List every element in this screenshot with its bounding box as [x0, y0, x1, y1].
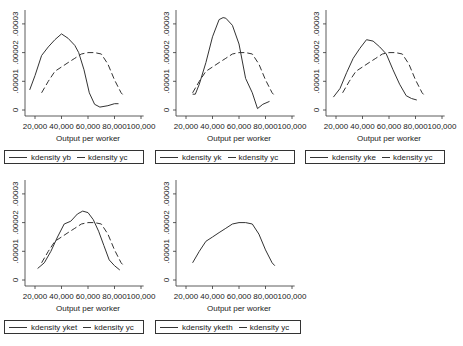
chart-svg: 0.00001.00002.0000320,00040,00060,00080,…	[0, 170, 154, 310]
x-tick-label: 80,000	[253, 292, 278, 301]
legend-item-solid: kdensity yb	[9, 153, 71, 162]
x-axis-title: Output per worker	[207, 304, 271, 313]
legend-item-dashed: kdensity yc	[233, 323, 290, 332]
legend-label-dashed: kdensity yc	[239, 153, 279, 162]
chart-panel-yketh: 0.00001.00002.0000320,00040,00060,00080,…	[151, 170, 305, 340]
dashed-line-swatch-icon	[83, 327, 91, 328]
legend-label-solid: kdensity yketh	[182, 323, 233, 332]
solid-density-line	[30, 34, 119, 107]
solid-density-line	[193, 18, 270, 109]
legend-item-dashed: kdensity yc	[77, 323, 134, 332]
dashed-line-swatch-icon	[228, 157, 236, 158]
y-tick-label: .00002	[11, 210, 20, 235]
solid-line-swatch-icon	[160, 327, 178, 328]
x-axis-title: Output per worker	[56, 134, 120, 143]
legend: kdensity ykkdensity yc	[155, 150, 295, 164]
solid-line-swatch-icon	[310, 157, 328, 158]
legend-item-solid: kdensity yketh	[160, 323, 233, 332]
x-axis-title: Output per worker	[207, 134, 271, 143]
x-tick-label: 40,000	[350, 122, 375, 131]
y-tick-label: .00001	[11, 239, 20, 264]
x-axis-title: Output per worker	[56, 304, 120, 313]
dashed-density-line	[343, 53, 425, 96]
chart-svg: 0.00001.00002.0000320,00040,00060,00080,…	[151, 170, 305, 310]
x-tick-label: 80,000	[253, 122, 278, 131]
y-tick-label: .00002	[162, 210, 171, 235]
legend-item-solid: kdensity yke	[310, 153, 376, 162]
y-tick-label: .00003	[162, 11, 171, 36]
legend-label-dashed: kdensity yc	[88, 153, 128, 162]
x-tick-label: 80,000	[403, 122, 428, 131]
y-tick-label: .00002	[11, 40, 20, 65]
x-tick-label: 60,000	[227, 292, 252, 301]
legend-item-solid: kdensity yket	[9, 323, 77, 332]
y-tick-label: .00003	[312, 11, 321, 36]
x-tick-label: 100,000	[278, 292, 307, 301]
legend-label-solid: kdensity yk	[182, 153, 222, 162]
x-tick-label: 60,000	[76, 292, 101, 301]
legend: kdensity yketkdensity yc	[4, 320, 144, 334]
x-tick-label: 20,000	[174, 292, 199, 301]
legend-label-dashed: kdensity yc	[393, 153, 433, 162]
x-tick-label: 40,000	[49, 292, 74, 301]
legend: kdensity ykethkdensity yc	[155, 320, 301, 334]
y-tick-label: .00001	[11, 69, 20, 94]
x-tick-label: 20,000	[23, 122, 48, 131]
dashed-density-line	[42, 53, 124, 96]
chart-svg: 0.00001.00002.0000320,00040,00060,00080,…	[151, 0, 305, 140]
y-tick-label: .00003	[11, 181, 20, 206]
legend-item-dashed: kdensity yc	[222, 153, 279, 162]
solid-density-line	[333, 40, 416, 100]
solid-line-swatch-icon	[160, 157, 178, 158]
chart-panel-yket: 0.00001.00002.0000320,00040,00060,00080,…	[0, 170, 154, 340]
x-tick-label: 100,000	[428, 122, 457, 131]
y-tick-label: .00002	[162, 40, 171, 65]
chart-panel-yb: 0.00001.00002.0000320,00040,00060,00080,…	[0, 0, 154, 170]
y-tick-label: .00001	[162, 69, 171, 94]
chart-panel-yke: 0.00001.00002.0000320,00040,00060,00080,…	[301, 0, 455, 170]
legend-label-dashed: kdensity yc	[250, 323, 290, 332]
y-tick-label: 0	[162, 277, 171, 282]
x-tick-label: 40,000	[200, 292, 225, 301]
dashed-line-swatch-icon	[77, 157, 85, 158]
legend: kdensity ykekdensity yc	[305, 150, 445, 164]
dashed-line-swatch-icon	[239, 327, 247, 328]
dashed-line-swatch-icon	[382, 157, 390, 158]
y-tick-label: .00002	[312, 40, 321, 65]
x-tick-label: 60,000	[76, 122, 101, 131]
legend-item-dashed: kdensity yc	[71, 153, 128, 162]
x-tick-label: 60,000	[227, 122, 252, 131]
legend-label-solid: kdensity yb	[31, 153, 71, 162]
chart-panel-yk: 0.00001.00002.0000320,00040,00060,00080,…	[151, 0, 305, 170]
y-tick-label: 0	[312, 107, 321, 112]
x-tick-label: 20,000	[23, 292, 48, 301]
y-tick-label: 0	[11, 107, 20, 112]
legend: kdensity ybkdensity yc	[4, 150, 144, 164]
x-axis-title: Output per worker	[357, 134, 421, 143]
solid-line-swatch-icon	[9, 157, 27, 158]
dashed-density-line	[193, 53, 275, 96]
legend-item-solid: kdensity yk	[160, 153, 222, 162]
legend-label-solid: kdensity yket	[31, 323, 77, 332]
solid-density-line	[193, 223, 275, 266]
chart-svg: 0.00001.00002.0000320,00040,00060,00080,…	[0, 0, 154, 140]
y-tick-label: .00003	[162, 181, 171, 206]
solid-line-swatch-icon	[9, 327, 27, 328]
x-tick-label: 20,000	[174, 122, 199, 131]
x-tick-label: 60,000	[377, 122, 402, 131]
y-tick-label: 0	[162, 107, 171, 112]
y-tick-label: .00003	[11, 11, 20, 36]
y-tick-label: 0	[11, 277, 20, 282]
chart-svg: 0.00001.00002.0000320,00040,00060,00080,…	[301, 0, 455, 140]
legend-item-dashed: kdensity yc	[376, 153, 433, 162]
y-tick-label: .00001	[162, 239, 171, 264]
x-tick-label: 80,000	[102, 292, 127, 301]
x-tick-label: 20,000	[324, 122, 349, 131]
legend-label-solid: kdensity yke	[332, 153, 376, 162]
x-tick-label: 40,000	[49, 122, 74, 131]
legend-label-dashed: kdensity yc	[94, 323, 134, 332]
solid-density-line	[38, 211, 120, 270]
y-tick-label: .00001	[312, 69, 321, 94]
x-tick-label: 40,000	[200, 122, 225, 131]
x-tick-label: 80,000	[102, 122, 127, 131]
